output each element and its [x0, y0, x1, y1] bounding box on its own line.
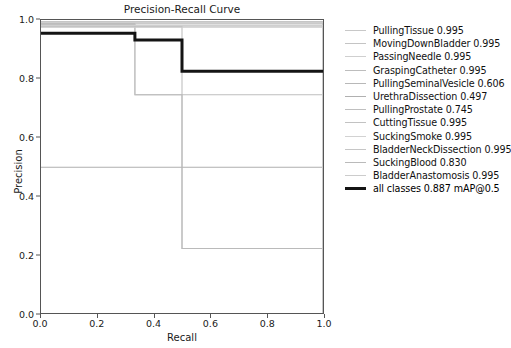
- legend-item-label: PullingTissue 0.995: [373, 25, 464, 36]
- legend-item[interactable]: BladderNeckDissection 0.995: [345, 143, 503, 156]
- y-tick-label: 1.0: [0, 14, 34, 25]
- legend-item[interactable]: PullingSeminalVesicle 0.606: [345, 77, 503, 90]
- legend-item-label: SuckingSmoke 0.995: [373, 131, 472, 142]
- legend-item[interactable]: SuckingSmoke 0.995: [345, 130, 503, 143]
- x-tick-label: 0.6: [190, 318, 230, 329]
- legend-line-icon: [345, 136, 366, 137]
- legend-line-icon: [345, 162, 366, 163]
- legend-item[interactable]: PullingTissue 0.995: [345, 24, 503, 37]
- legend-item-label: MovingDownBladder 0.995: [373, 38, 500, 49]
- y-tick-label: 0.6: [0, 132, 34, 143]
- legend-line-icon: [345, 56, 366, 57]
- legend-item[interactable]: MovingDownBladder 0.995: [345, 37, 503, 50]
- x-tick-mark: [154, 314, 155, 318]
- legend-item[interactable]: PullingProstate 0.745: [345, 103, 503, 116]
- legend-line-icon: [345, 43, 366, 44]
- x-tick-mark: [324, 314, 325, 318]
- x-tick-label: 0.8: [247, 318, 287, 329]
- legend-item[interactable]: SuckingBlood 0.830: [345, 156, 503, 169]
- legend-item[interactable]: all classes 0.887 mAP@0.5: [345, 182, 503, 195]
- legend-line-icon: [345, 96, 366, 97]
- x-tick-mark: [40, 314, 41, 318]
- chart-title: Precision-Recall Curve: [40, 3, 324, 15]
- legend-item-label: all classes 0.887 mAP@0.5: [373, 183, 500, 194]
- x-tick-label: 1.0: [304, 318, 344, 329]
- legend-line-icon: [345, 149, 366, 150]
- y-tick-label: 0.2: [0, 250, 34, 261]
- legend-item[interactable]: PassingNeedle 0.995: [345, 50, 503, 63]
- x-tick-label: 0.2: [77, 318, 117, 329]
- curve-lines: [41, 20, 323, 313]
- x-tick-mark: [97, 314, 98, 318]
- x-tick-mark: [210, 314, 211, 318]
- legend-line-icon: [345, 175, 366, 176]
- legend-item-label: SuckingBlood 0.830: [373, 157, 467, 168]
- legend-item-label: GraspingCatheter 0.995: [373, 65, 486, 76]
- y-tick-label: 0.4: [0, 191, 34, 202]
- x-tick-label: 0.0: [20, 318, 60, 329]
- x-tick-mark: [267, 314, 268, 318]
- legend-item[interactable]: GraspingCatheter 0.995: [345, 64, 503, 77]
- legend-item-label: BladderNeckDissection 0.995: [373, 144, 511, 155]
- legend: PullingTissue 0.995MovingDownBladder 0.9…: [345, 24, 503, 195]
- legend-item[interactable]: CuttingTissue 0.995: [345, 116, 503, 129]
- legend-line-icon: [345, 70, 366, 71]
- legend-item-label: UrethraDissection 0.497: [373, 91, 487, 102]
- legend-line-icon: [345, 187, 366, 190]
- legend-item-label: BladderAnastomosis 0.995: [373, 170, 499, 181]
- legend-line-icon: [345, 83, 366, 84]
- legend-line-icon: [345, 109, 366, 110]
- legend-line-icon: [345, 122, 366, 123]
- curve-all classes: [41, 33, 323, 71]
- legend-item-label: CuttingTissue 0.995: [373, 117, 467, 128]
- x-axis-label: Recall: [40, 332, 324, 343]
- legend-item-label: PullingProstate 0.745: [373, 104, 473, 115]
- x-tick-label: 0.4: [134, 318, 174, 329]
- y-tick-label: 0.8: [0, 73, 34, 84]
- legend-item-label: PassingNeedle 0.995: [373, 51, 471, 62]
- legend-item[interactable]: BladderAnastomosis 0.995: [345, 169, 503, 182]
- legend-item[interactable]: UrethraDissection 0.497: [345, 90, 503, 103]
- legend-item-label: PullingSeminalVesicle 0.606: [373, 78, 505, 89]
- legend-line-icon: [345, 30, 366, 31]
- plot-area: [40, 19, 324, 314]
